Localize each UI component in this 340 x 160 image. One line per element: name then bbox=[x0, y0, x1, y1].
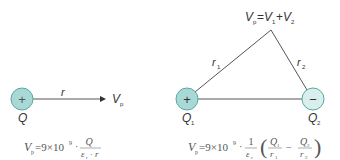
r2-line bbox=[271, 30, 307, 90]
formula-r1: r bbox=[270, 149, 274, 159]
formula-q2-sub: 2 bbox=[307, 143, 310, 148]
formula-epsilon-sub: r bbox=[251, 155, 253, 160]
charge2-sub: 2 bbox=[317, 120, 321, 126]
apex-s2: 2 bbox=[291, 19, 295, 25]
left-diagram: + Q r V p V p =9×10 9 · Q ε r · r bbox=[11, 86, 124, 160]
formula-one: 1 bbox=[249, 136, 254, 147]
formula-den-dot: · bbox=[90, 150, 93, 159]
distance-label: r bbox=[61, 86, 66, 98]
formula-r1-sub: 1 bbox=[275, 155, 278, 160]
formula-epsilon: ε bbox=[246, 149, 250, 159]
formula-prefix: =9×10 bbox=[35, 141, 64, 153]
minus-sign: − bbox=[309, 92, 317, 107]
apex-label: V p = V 1 + V 2 bbox=[245, 10, 295, 25]
charge-label: Q bbox=[18, 111, 27, 125]
formula-exponent: 9 bbox=[233, 140, 236, 146]
diagram-canvas: + Q r V p V p =9×10 9 · Q ε r · r + − Q … bbox=[0, 0, 340, 160]
formula-den-r: r bbox=[95, 149, 99, 159]
formula-dot: · bbox=[239, 141, 242, 152]
apex-plus: + bbox=[276, 10, 283, 24]
arrow-head-icon bbox=[100, 96, 106, 102]
charge1-sub: 1 bbox=[191, 120, 195, 126]
formula-lhs-sub: p bbox=[31, 149, 34, 155]
formula-epsilon-sub: r bbox=[86, 155, 88, 160]
charge2-label: Q bbox=[308, 111, 317, 125]
r2-sub: 2 bbox=[302, 64, 306, 70]
formula-exponent: 9 bbox=[69, 140, 72, 146]
left-paren: ( bbox=[260, 134, 267, 159]
apex-eq: = bbox=[257, 10, 264, 24]
formula-epsilon: ε bbox=[81, 149, 85, 159]
right-paren: ) bbox=[314, 134, 321, 159]
left-formula: V p =9×10 9 · Q ε r · r bbox=[24, 136, 101, 160]
formula-r2-sub: 2 bbox=[305, 155, 308, 160]
plus-sign: + bbox=[183, 92, 191, 107]
r1-line bbox=[195, 30, 271, 92]
point-label-sub: p bbox=[120, 101, 124, 107]
formula-prefix: =9×10 bbox=[199, 141, 228, 153]
formula-minus: − bbox=[286, 142, 292, 153]
formula-q1-sub: 1 bbox=[277, 143, 280, 148]
formula-r2: r bbox=[300, 149, 304, 159]
right-formula: V p =9×10 9 · 1 ε r ( Q 1 r 1 − Q 2 r 2 … bbox=[188, 134, 321, 160]
formula-lhs-sub: p bbox=[195, 149, 198, 155]
plus-sign: + bbox=[18, 92, 26, 107]
formula-dot: · bbox=[75, 141, 78, 152]
formula-numerator: Q bbox=[85, 136, 93, 147]
r1-sub: 1 bbox=[217, 64, 221, 70]
charge1-label: Q bbox=[182, 111, 191, 125]
right-diagram: + − Q 1 Q 2 r 1 r 2 V p = V 1 + V 2 V p … bbox=[176, 10, 324, 160]
